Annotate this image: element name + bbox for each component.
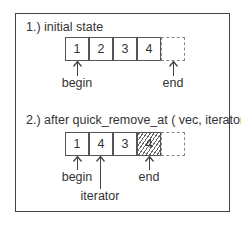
section1-end-label: end xyxy=(163,76,184,90)
section2-cell-0: 1 xyxy=(65,132,89,156)
section2-cell-placeholder xyxy=(161,132,185,156)
section1-title: 1.) initial state xyxy=(26,20,103,34)
section2-begin-label: begin xyxy=(62,170,93,184)
section1-cell-2: 3 xyxy=(113,37,137,61)
section2-iterator-label: iterator xyxy=(81,189,120,203)
section2-cell-1: 4 xyxy=(89,132,113,156)
section2-cell-2: 3 xyxy=(113,132,137,156)
section1-cell-1: 2 xyxy=(89,37,113,61)
section2-end-label: end xyxy=(139,170,160,184)
section1-begin-label: begin xyxy=(62,76,93,90)
section2-title: 2.) after quick_remove_at ( vec, iterato… xyxy=(26,113,241,127)
section1-cell-3: 4 xyxy=(137,37,161,61)
section2-cell-3-removed: 4 xyxy=(137,132,161,156)
section1-cell-placeholder xyxy=(161,37,185,61)
section1-cell-0: 1 xyxy=(65,37,89,61)
